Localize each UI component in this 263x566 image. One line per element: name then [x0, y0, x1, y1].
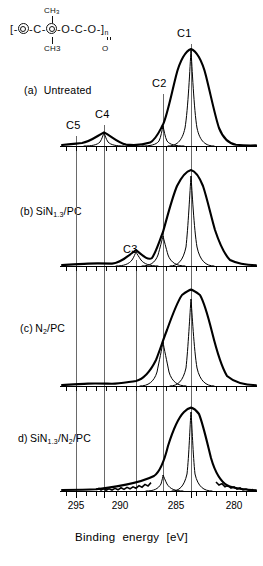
axis-panel-a	[60, 146, 257, 151]
axis-line-a	[60, 146, 257, 147]
xps-figure: CH3 [‑‑C‑‑O‑C‑O‑]n CH3 O (a) Untreated (…	[0, 0, 263, 566]
axis-line-d	[60, 491, 257, 492]
axis-panel-c	[60, 386, 257, 391]
envelope-a	[62, 49, 256, 146]
x-axis-title-word-1: Binding	[75, 531, 115, 543]
spectrum-panel-a	[62, 49, 256, 146]
axis-line-c	[60, 386, 257, 387]
spectrum-panel-d	[62, 408, 256, 491]
x-axis-title: Bindingenergy[eV]	[0, 531, 263, 543]
spectrum-panel-b	[62, 170, 256, 266]
axis-ticks-c	[66, 387, 247, 391]
x-axis-title-unit: [eV]	[166, 531, 188, 543]
xtick-label-280: 280	[226, 500, 243, 511]
component-c2-c	[140, 342, 186, 386]
component-c1-a	[168, 50, 214, 146]
axis-panel-d	[60, 491, 257, 498]
axis-ticks-b	[66, 267, 247, 271]
xtick-label-285: 285	[168, 500, 185, 511]
xtick-label-295: 295	[68, 500, 85, 511]
spectra-canvas	[0, 0, 263, 566]
axis-panel-b	[60, 266, 257, 271]
noise-trace-d	[96, 483, 151, 491]
xtick-label-290: 290	[112, 500, 129, 511]
component-c2-b	[142, 236, 185, 266]
axis-ticks-a	[66, 147, 247, 151]
axis-line-b	[60, 266, 257, 267]
noise-trace-d-right	[216, 482, 253, 490]
component-c1-d	[172, 412, 212, 491]
axis-ticks-d	[66, 492, 247, 498]
envelope-d	[62, 408, 256, 491]
spectrum-panel-c	[62, 290, 256, 386]
envelope-c	[62, 290, 256, 386]
x-axis-title-word-2: energy	[122, 531, 159, 543]
